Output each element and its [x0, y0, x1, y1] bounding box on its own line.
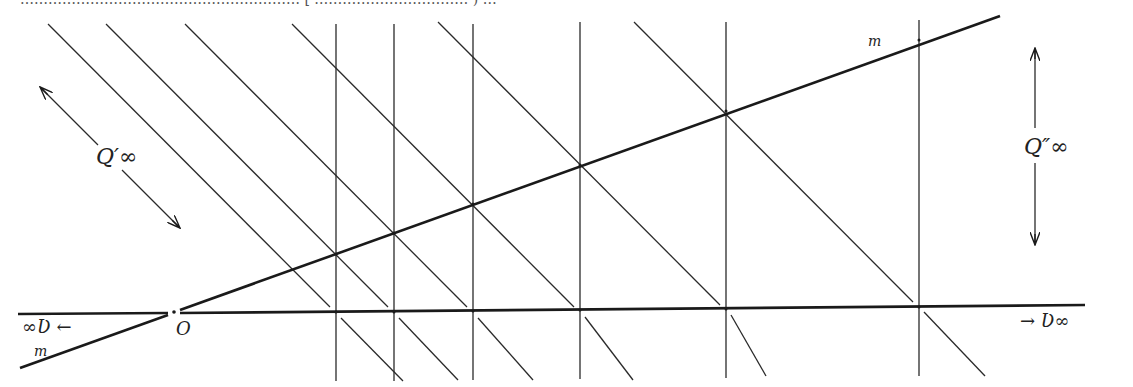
- diagonal-line-2: [106, 24, 388, 307]
- label-q-double-infinity: Q″∞: [1024, 134, 1069, 159]
- q-prime-arrow-up-icon: [40, 87, 98, 145]
- diagonal-line-5: [438, 22, 720, 305]
- diagonal-line-6b: [924, 312, 985, 376]
- diagonal-line-4b: [585, 317, 633, 380]
- label-q-prime-infinity: Q′∞: [96, 144, 137, 169]
- diagonal-line-3: [185, 24, 467, 307]
- vertical-parallel-lines: [336, 20, 919, 381]
- q-prime-arrow-down-icon: [122, 170, 180, 228]
- diagonal-line-5b: [731, 315, 766, 376]
- horizontal-axis-line: [18, 313, 168, 314]
- diagonal-line-1: [48, 24, 330, 307]
- diagonal-line-3b: [478, 318, 533, 380]
- label-m-top: m: [868, 33, 881, 49]
- horizontal-axis-line-right: [180, 305, 1085, 313]
- label-v-infinity-right: → Ʋ∞: [1020, 310, 1069, 331]
- label-origin: O: [176, 318, 191, 339]
- origin-point: [172, 310, 176, 314]
- label-m-bottom: m: [34, 343, 47, 359]
- diagonal-line-2b: [399, 318, 458, 380]
- diagonal-line-4: [292, 24, 574, 307]
- label-v-infinity-left: ∞Ʋ ←: [22, 316, 71, 337]
- projective-diagram: [0, 0, 1133, 387]
